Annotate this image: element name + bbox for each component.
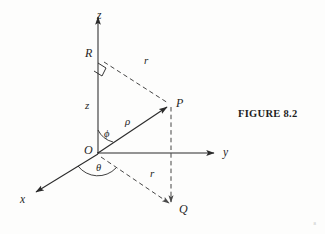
length-label-z: z [85, 100, 89, 111]
axis-label-z: z [97, 10, 101, 22]
figure-caption: FIGURE 8.2 [238, 108, 298, 119]
point-label-q: Q [179, 203, 188, 215]
origin-marker [97, 152, 99, 154]
axis-label-y: y [223, 147, 228, 159]
segment-r-RP [104, 62, 168, 103]
angle-label-theta: θ [96, 163, 101, 174]
length-label-r-lower: r [150, 168, 154, 179]
length-label-rho: ρ [125, 116, 130, 127]
point-label-o: O [84, 144, 93, 156]
segment-r-OQ [101, 157, 169, 203]
point-label-p: P [176, 97, 183, 109]
length-label-r-upper: r [144, 55, 148, 66]
figure-container: x y z O P Q R r r z ρ ϕ θ FIGURE 8.2 8 [0, 0, 325, 234]
angle-label-phi: ϕ [104, 129, 109, 140]
right-angle-mark-R [94, 63, 106, 76]
axis-x [36, 154, 98, 192]
point-label-r: R [85, 47, 92, 59]
page-number-mark: 8 [314, 221, 317, 226]
axis-label-x: x [20, 194, 25, 206]
